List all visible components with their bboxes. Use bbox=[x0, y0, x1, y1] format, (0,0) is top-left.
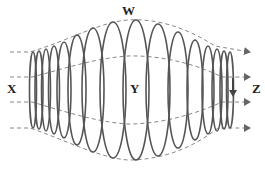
label-z: Z bbox=[252, 82, 261, 95]
coil-diagram: W X Y Z bbox=[0, 0, 265, 169]
current-arrow bbox=[229, 78, 237, 97]
label-x: X bbox=[7, 82, 16, 95]
label-w: W bbox=[122, 4, 135, 17]
label-y: Y bbox=[130, 82, 139, 95]
